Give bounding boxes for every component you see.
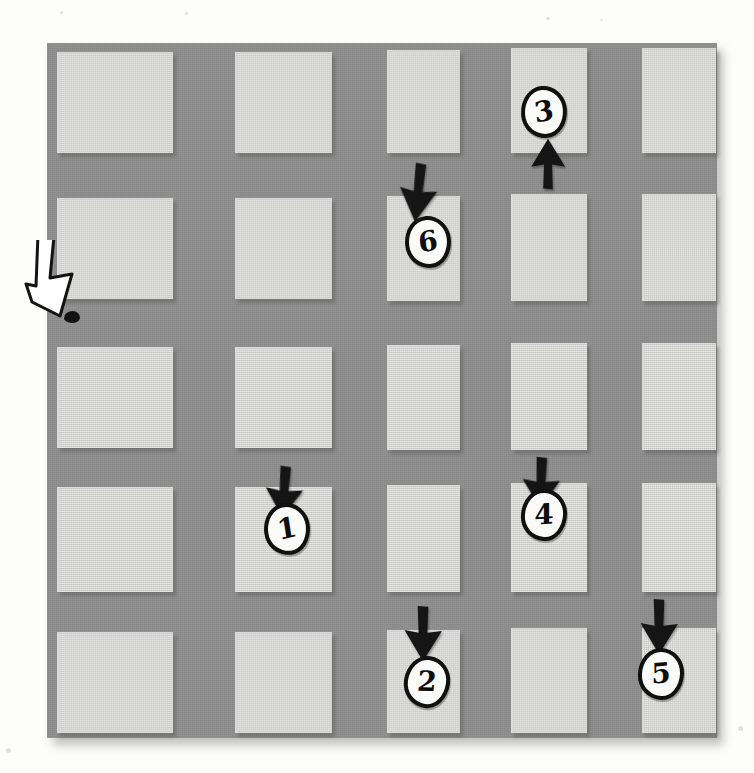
tile-r1c1[interactable]	[57, 52, 173, 153]
marker-3: 3	[519, 84, 569, 139]
tile-r5c4[interactable]	[511, 628, 587, 733]
grid-panel	[47, 43, 717, 738]
marker-1: 1	[261, 501, 312, 558]
marker-label: 6	[402, 211, 454, 272]
scan-speck	[546, 17, 550, 20]
scan-speck	[738, 726, 743, 731]
arrow-to-marker-3	[528, 138, 568, 190]
ink-dot	[64, 311, 80, 323]
marker-4: 4	[520, 488, 569, 542]
tile-r3c4[interactable]	[511, 343, 587, 450]
tile-r2c4[interactable]	[511, 194, 587, 301]
marker-label: 4	[521, 487, 567, 542]
scan-speck	[60, 11, 63, 14]
white-pointer-arrow	[20, 240, 82, 320]
marker-label: 1	[261, 498, 314, 560]
tile-r3c2[interactable]	[235, 347, 332, 448]
tile-r4c5[interactable]	[642, 483, 716, 592]
tile-r2c2[interactable]	[235, 198, 332, 299]
tile-r1c3[interactable]	[387, 50, 460, 153]
tile-r2c5[interactable]	[642, 194, 716, 301]
tile-r4c1[interactable]	[57, 487, 173, 592]
marker-label: 5	[638, 646, 685, 702]
tile-r3c1[interactable]	[57, 347, 173, 448]
tile-r1c5[interactable]	[642, 48, 716, 153]
scan-speck	[6, 748, 11, 753]
marker-label: 3	[518, 82, 570, 143]
scan-speck	[185, 12, 188, 15]
tile-r3c5[interactable]	[642, 343, 716, 450]
marker-5: 5	[637, 647, 685, 701]
tile-r4c3[interactable]	[387, 485, 460, 592]
marker-6: 6	[403, 214, 453, 270]
marker-2: 2	[401, 653, 454, 711]
marker-label: 2	[402, 656, 453, 709]
tile-r5c2[interactable]	[235, 632, 332, 733]
tile-r5c1[interactable]	[57, 632, 173, 733]
tile-r3c3[interactable]	[387, 345, 460, 450]
scan-speck	[600, 19, 603, 21]
tile-r1c2[interactable]	[235, 52, 332, 153]
